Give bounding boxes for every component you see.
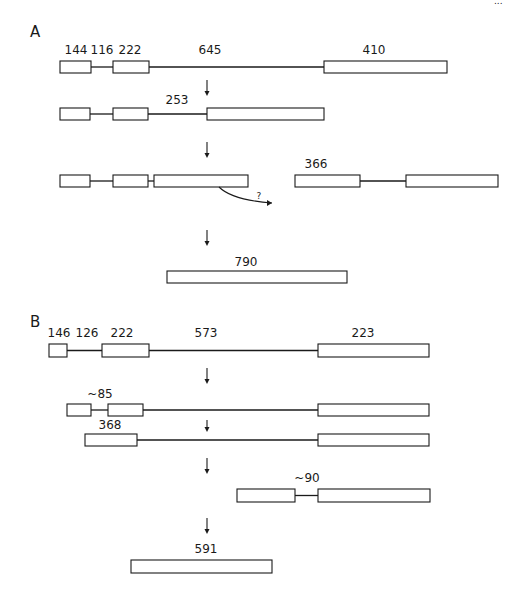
- exon-box: [318, 404, 429, 416]
- splicing-pathway-diagram: ... A144116222645410253366?790B146126222…: [0, 0, 524, 600]
- exon-box: [113, 175, 148, 187]
- exon-box: [318, 434, 429, 446]
- exon-box: [60, 175, 90, 187]
- length-label: 223: [352, 326, 375, 340]
- intermediate-b1: ~85: [67, 387, 429, 416]
- panel-b: B146126222573223~85368~90591: [30, 313, 430, 573]
- down-arrow-icon: [205, 518, 210, 534]
- panel-label: A: [30, 23, 41, 41]
- exon-box: [295, 175, 360, 187]
- length-label: 126: [76, 326, 99, 340]
- length-label: ~85: [87, 387, 112, 401]
- mature-a: 790: [167, 255, 347, 283]
- down-arrow-icon: [205, 142, 210, 158]
- down-arrow-icon: [205, 420, 210, 432]
- exon-box: [406, 175, 498, 187]
- exon-box: [131, 560, 272, 573]
- length-label: 144: [65, 43, 88, 57]
- intermediate-a2: 366?: [60, 157, 498, 201]
- mature-b: 591: [131, 542, 272, 573]
- exon-box: [60, 108, 90, 120]
- down-arrow-icon: [205, 368, 210, 384]
- exon-box: [207, 108, 324, 120]
- length-label: 222: [111, 326, 134, 340]
- length-label: 591: [195, 542, 218, 556]
- exon-box: [49, 344, 67, 357]
- precursor-a: 144116222645410: [60, 43, 447, 73]
- panel-a: A144116222645410253366?790: [30, 23, 498, 283]
- exon-box: [113, 108, 148, 120]
- down-arrow-icon: [205, 80, 210, 96]
- precursor-b: 146126222573223: [48, 326, 429, 357]
- exon-box: [85, 434, 137, 446]
- down-arrow-icon: [205, 458, 210, 474]
- exon-box: [154, 175, 248, 187]
- length-label: 573: [195, 326, 218, 340]
- length-label: 645: [199, 43, 222, 57]
- page-number: ...: [494, 0, 503, 6]
- intermediate-b3: ~90: [237, 471, 430, 502]
- length-label: 366: [305, 157, 328, 171]
- exon-box: [102, 344, 149, 357]
- exon-box: [60, 61, 91, 73]
- length-label: 222: [119, 43, 142, 57]
- length-label: 410: [363, 43, 386, 57]
- curved-arrow-icon: [219, 187, 272, 206]
- length-label: 368: [99, 418, 122, 432]
- exon-box: [324, 61, 447, 73]
- intermediate-b2: 368: [85, 418, 429, 446]
- down-arrow-icon: [205, 230, 210, 246]
- exon-box: [113, 61, 149, 73]
- exon-box: [167, 271, 347, 283]
- panel-label: B: [30, 313, 40, 331]
- length-label: ~90: [294, 471, 319, 485]
- length-label: 253: [166, 93, 189, 107]
- length-label: 790: [235, 255, 258, 269]
- exon-box: [108, 404, 143, 416]
- length-label: 146: [48, 326, 71, 340]
- exon-box: [237, 489, 295, 502]
- intermediate-a1: 253: [60, 93, 324, 120]
- exon-box: [67, 404, 91, 416]
- length-label: 116: [91, 43, 114, 57]
- exon-box: [318, 344, 429, 357]
- length-label: ?: [257, 191, 262, 201]
- exon-box: [318, 489, 430, 502]
